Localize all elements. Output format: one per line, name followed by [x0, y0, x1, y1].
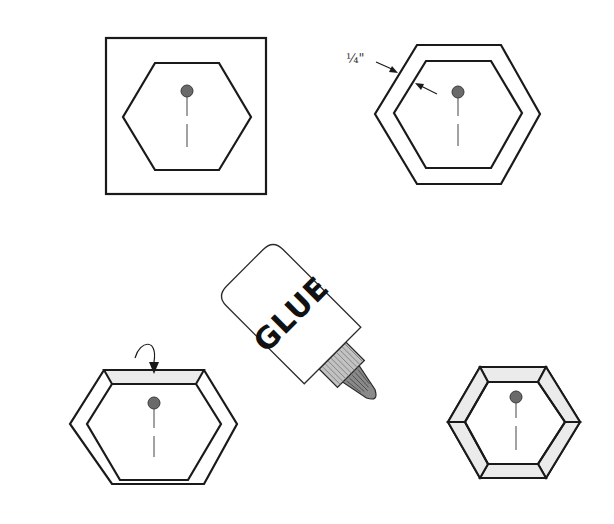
- pin-icon: [181, 85, 193, 147]
- hexagon-fabric-diagram: ¼": [0, 0, 614, 524]
- folded-edge-bottom: [480, 464, 546, 478]
- outer-hexagon: [448, 367, 580, 478]
- pin-icon: [148, 397, 160, 457]
- step-3-panel: GLUE: [70, 235, 407, 484]
- arrow-to-outer-edge-icon: [376, 62, 398, 73]
- hexagon-template: [123, 63, 251, 170]
- step-1-panel: [106, 38, 266, 194]
- arrow-to-inner-edge-icon: [415, 83, 437, 94]
- seam-allowance-label: ¼": [346, 51, 365, 66]
- glue-bottle-icon: GLUE: [212, 235, 407, 430]
- step-4-panel: [448, 367, 580, 478]
- step-2-panel: ¼": [346, 45, 540, 184]
- folded-edge-top: [480, 367, 546, 382]
- pin-icon: [452, 86, 464, 146]
